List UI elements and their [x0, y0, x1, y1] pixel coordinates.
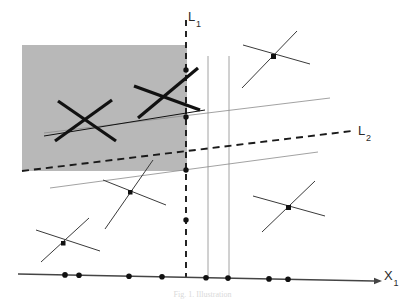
rug-point	[203, 275, 209, 281]
marker-stroke-a	[242, 31, 297, 88]
label-axis-x-base: X	[384, 268, 393, 283]
marker-centre-p4	[128, 190, 133, 195]
marker-centre-p3	[271, 54, 276, 59]
rug-point	[126, 273, 132, 279]
label-axis-x-subscript: 1	[393, 278, 398, 288]
label-axis-x: X1	[384, 268, 398, 286]
marker-stroke-b	[243, 45, 310, 64]
rug-point	[225, 275, 231, 281]
boundary-point	[183, 167, 188, 172]
figure-caption: Fig. 1. Illustration	[0, 290, 405, 299]
boundary-point	[183, 114, 188, 119]
shaded-region	[22, 45, 187, 171]
label-line-1-base: L	[188, 9, 195, 24]
marker-centre-p6	[286, 205, 291, 210]
marker-stroke-b	[103, 180, 166, 205]
label-line-1: L1	[188, 9, 201, 27]
rug-point	[285, 277, 291, 283]
rug-point	[266, 276, 272, 282]
marker-cross-thin-p3	[242, 31, 310, 88]
figure-canvas	[0, 0, 405, 301]
boundary-point	[183, 67, 188, 72]
figure-container: L1 L2 X1 Fig. 1. Illustration	[0, 0, 405, 301]
boundary-point	[183, 217, 188, 222]
x-axis-arrowhead	[374, 278, 382, 284]
rug-point	[62, 272, 68, 278]
x-axis	[18, 274, 382, 284]
x-axis-line	[18, 274, 374, 281]
label-line-2: L2	[358, 123, 371, 141]
rug-point	[76, 272, 82, 278]
marker-cross-thin-p5	[36, 218, 100, 262]
label-line-2-base: L	[358, 123, 365, 138]
rug-point	[159, 274, 165, 280]
marker-stroke-b	[36, 230, 100, 251]
marker-centre-p5	[61, 241, 66, 246]
label-line-1-subscript: 1	[196, 19, 201, 29]
label-line-2-subscript: 2	[366, 133, 371, 143]
